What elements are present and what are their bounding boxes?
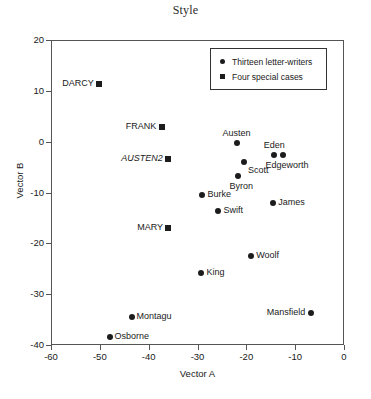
chart-page: Style 20100-10-20-30-40 -60-50-40-30-20-… (0, 0, 371, 399)
data-point[interactable] (234, 140, 240, 146)
x-tick-label: -60 (31, 352, 71, 362)
data-point-label: Montagu (137, 311, 172, 321)
data-point-label: Swift (223, 205, 243, 215)
y-tick-label: -20 (10, 238, 44, 248)
data-point-label: FRANK (126, 121, 157, 131)
page-title: Style (0, 3, 371, 18)
x-tick-mark (149, 345, 150, 350)
square-marker-icon (215, 74, 229, 79)
x-tick-mark (344, 345, 345, 350)
data-point[interactable] (159, 124, 165, 130)
x-tick-label: -20 (226, 352, 266, 362)
data-point[interactable] (215, 208, 221, 214)
x-tick-mark (295, 345, 296, 350)
y-tick-label: -30 (10, 289, 44, 299)
data-point-label: Mansfield (267, 307, 306, 317)
circle-marker-icon (215, 59, 229, 64)
legend-label: Four special cases (229, 72, 303, 82)
data-point[interactable] (241, 159, 247, 165)
y-tick-label: 10 (10, 86, 44, 96)
data-point[interactable] (165, 156, 171, 162)
x-tick-mark (198, 345, 199, 350)
data-point-label: King (206, 267, 224, 277)
x-tick-mark (246, 345, 247, 350)
data-point[interactable] (235, 173, 241, 179)
data-point-label: Woolf (256, 250, 279, 260)
chart-legend: Thirteen letter-writersFour special case… (210, 48, 327, 90)
x-tick-mark (100, 345, 101, 350)
data-point[interactable] (165, 225, 171, 231)
data-point[interactable] (96, 81, 102, 87)
data-point-label: DARCY (62, 78, 94, 88)
data-point-label: Osborne (115, 331, 150, 341)
data-point-label: James (278, 197, 305, 207)
data-point[interactable] (248, 253, 254, 259)
data-point-label: Eden (264, 140, 285, 150)
x-axis-label: Vector A (51, 368, 344, 379)
data-point-label: Scott (248, 165, 269, 175)
legend-item[interactable]: Four special cases (215, 69, 321, 84)
data-point[interactable] (198, 270, 204, 276)
data-point[interactable] (308, 310, 314, 316)
y-tick-label: -40 (10, 340, 44, 350)
data-point[interactable] (199, 192, 205, 198)
data-point[interactable] (129, 314, 135, 320)
data-point-label: Byron (230, 181, 254, 191)
x-tick-label: -50 (80, 352, 120, 362)
y-axis-label: Vector B (14, 136, 25, 226)
legend-item[interactable]: Thirteen letter-writers (215, 54, 321, 69)
data-point[interactable] (107, 334, 113, 340)
data-point[interactable] (270, 200, 276, 206)
data-point-label: AUSTEN2 (121, 153, 163, 163)
y-tick-label: 20 (10, 35, 44, 45)
data-point-label: Edgeworth (265, 160, 308, 170)
data-point[interactable] (280, 152, 286, 158)
data-point-label: MARY (137, 222, 163, 232)
legend-label: Thirteen letter-writers (229, 57, 312, 67)
x-tick-label: -30 (178, 352, 218, 362)
data-point-label: Austen (223, 128, 251, 138)
x-tick-label: -10 (275, 352, 315, 362)
data-point[interactable] (271, 152, 277, 158)
x-tick-mark (51, 345, 52, 350)
data-point-label: Burke (207, 189, 231, 199)
x-tick-label: -40 (129, 352, 169, 362)
x-tick-label: 0 (324, 352, 364, 362)
